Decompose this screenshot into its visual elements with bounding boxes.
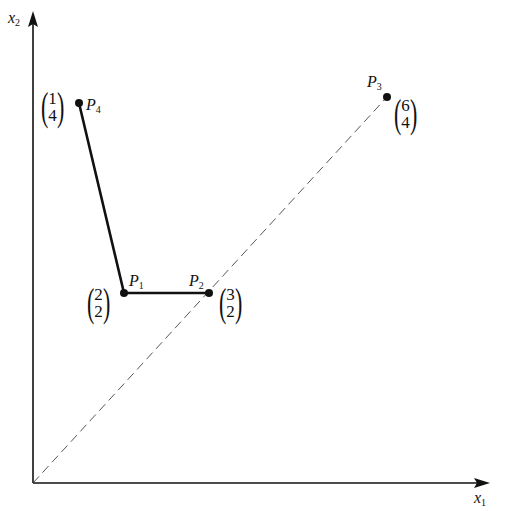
x1-axis-label: x1 — [474, 490, 486, 508]
vector-p3-bottom: 4 — [401, 114, 410, 131]
label-p1: P1 — [129, 273, 144, 291]
point-p1 — [120, 289, 128, 297]
vector-p2-top: 3 — [226, 286, 235, 303]
point-p4 — [75, 99, 83, 107]
vector-p3: ( 6 4 ) — [391, 94, 420, 134]
vector-p2: ( 3 2 ) — [216, 283, 245, 323]
vector-p4: ( 1 4 ) — [38, 87, 67, 127]
vector-p1-bottom: 2 — [94, 303, 103, 320]
vector-p4-top: 1 — [48, 90, 57, 107]
point-p2 — [205, 289, 213, 297]
label-p4: P4 — [86, 97, 101, 115]
vector-p3-top: 6 — [401, 97, 410, 114]
point-p3 — [383, 93, 391, 101]
diagram-graphics — [0, 0, 513, 511]
label-p2: P2 — [189, 273, 204, 291]
vector-p4-bottom: 4 — [48, 107, 57, 124]
vector-p1-top: 2 — [94, 286, 103, 303]
x2-axis-label: x2 — [8, 10, 20, 28]
solid-path — [79, 103, 209, 293]
vector-p1: ( 2 2 ) — [84, 283, 113, 323]
diagram-canvas: x2 x1 P4 P1 P2 P3 ( 1 4 ) ( 2 2 ) ( 3 2 — [0, 0, 513, 511]
vector-p2-bottom: 2 — [226, 303, 235, 320]
label-p3: P3 — [367, 74, 382, 92]
